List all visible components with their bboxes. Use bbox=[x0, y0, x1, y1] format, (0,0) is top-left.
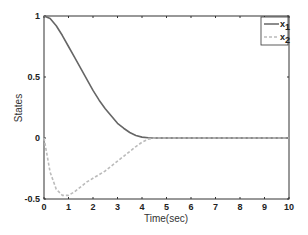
svg-text:9: 9 bbox=[262, 202, 267, 212]
svg-text:0: 0 bbox=[35, 133, 40, 143]
svg-text:0: 0 bbox=[41, 202, 46, 212]
svg-text:7: 7 bbox=[213, 202, 218, 212]
svg-text:2: 2 bbox=[285, 35, 290, 45]
svg-text:4: 4 bbox=[139, 202, 144, 212]
svg-text:8: 8 bbox=[237, 202, 242, 212]
svg-text:0.5: 0.5 bbox=[27, 72, 40, 82]
x-axis-label: Time(sec) bbox=[144, 213, 188, 224]
y-axis-label: States bbox=[13, 94, 24, 122]
plot-area bbox=[44, 16, 289, 199]
svg-text:1: 1 bbox=[35, 11, 40, 21]
svg-text:1: 1 bbox=[285, 22, 290, 32]
svg-text:3: 3 bbox=[115, 202, 120, 212]
legend: x 1 x 2 bbox=[261, 17, 290, 45]
svg-text:6: 6 bbox=[188, 202, 193, 212]
states-chart: 012345678910 -0.500.51 Time(sec) States … bbox=[0, 0, 308, 235]
svg-text:1: 1 bbox=[66, 202, 71, 212]
svg-text:10: 10 bbox=[284, 202, 294, 212]
svg-text:-0.5: -0.5 bbox=[24, 194, 40, 204]
svg-text:5: 5 bbox=[164, 202, 169, 212]
svg-text:2: 2 bbox=[90, 202, 95, 212]
